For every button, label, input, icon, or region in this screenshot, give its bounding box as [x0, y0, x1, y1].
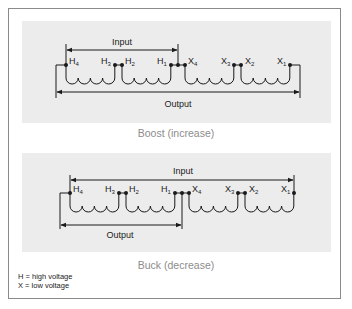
- buck-caption: Buck (decrease): [0, 259, 352, 271]
- legend-high-voltage: H = high voltage: [18, 272, 72, 281]
- svg-text:X2: X2: [249, 184, 259, 195]
- svg-text:H4: H4: [73, 184, 84, 195]
- coil-x4-x3: [185, 65, 234, 84]
- buck-input-label: Input: [173, 166, 194, 176]
- svg-text:H1: H1: [161, 184, 172, 195]
- boost-output-label: Output: [164, 99, 192, 109]
- coil-h4-h3: [70, 193, 119, 212]
- coil-h2-h1: [126, 193, 175, 212]
- coil-x2-x1: [245, 193, 294, 212]
- svg-text:H2: H2: [129, 184, 140, 195]
- buck-output-label: Output: [106, 230, 134, 240]
- svg-text:X3: X3: [225, 184, 235, 195]
- svg-text:H2: H2: [125, 56, 136, 67]
- output-right-lead: [290, 65, 300, 98]
- svg-text:H3: H3: [105, 184, 116, 195]
- svg-text:X2: X2: [245, 56, 255, 67]
- svg-text:X1: X1: [281, 184, 291, 195]
- output-left-lead: [60, 193, 70, 229]
- coil-h2-h1: [122, 65, 171, 84]
- svg-text:X3: X3: [221, 56, 231, 67]
- output-left-lead: [56, 65, 66, 98]
- terminal-dots: [68, 191, 296, 195]
- coil-x2-x1: [241, 65, 290, 84]
- svg-text:H1: H1: [157, 56, 168, 67]
- buck-schematic: [60, 175, 296, 229]
- coil-x4-x3: [189, 193, 238, 212]
- svg-text:X4: X4: [192, 184, 202, 195]
- coil-h4-h3: [66, 65, 115, 84]
- boost-schematic: [56, 44, 300, 98]
- boost-caption: Boost (increase): [0, 127, 352, 139]
- svg-text:X4: X4: [188, 56, 198, 67]
- boost-input-label: Input: [112, 37, 133, 47]
- svg-text:X1: X1: [277, 56, 287, 67]
- svg-text:H4: H4: [69, 56, 80, 67]
- legend-low-voltage: X = low voltage: [18, 281, 69, 290]
- terminal-dots: [64, 63, 292, 67]
- svg-text:H3: H3: [101, 56, 112, 67]
